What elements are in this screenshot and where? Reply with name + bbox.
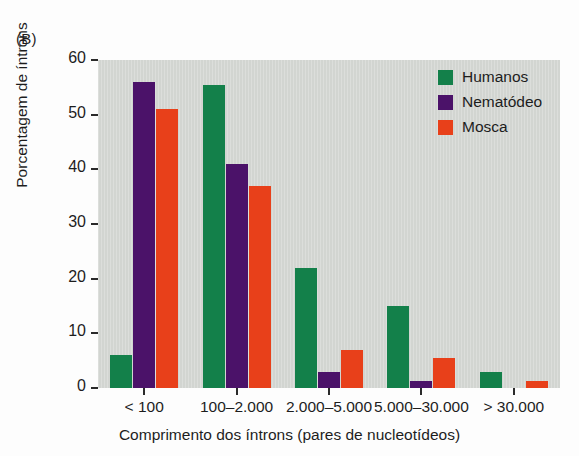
legend-color-swatch [438, 120, 453, 135]
y-axis-tick-label: 10 [68, 322, 86, 340]
legend-label: Nematódeo [462, 93, 542, 111]
x-axis-title: Comprimento dos íntrons (pares de nucleo… [0, 426, 579, 444]
y-axis-tick-label: 30 [68, 213, 86, 231]
bar [203, 85, 225, 388]
bar [480, 372, 502, 388]
y-axis-tick-mark [91, 278, 98, 280]
y-axis-tick-mark [91, 59, 98, 61]
x-axis-tick-mark [236, 388, 238, 395]
y-axis-tick-label: 60 [68, 49, 86, 67]
legend-color-swatch [438, 95, 453, 110]
y-axis-tick-mark [91, 332, 98, 334]
y-axis-tick-label: 40 [68, 158, 86, 176]
bar [526, 381, 548, 388]
y-axis-tick-mark [91, 168, 98, 170]
bar-group [295, 60, 363, 388]
y-axis-title: Porcentagem de íntrons [13, 0, 31, 245]
bar [110, 355, 132, 388]
y-axis-tick-label: 0 [77, 377, 86, 395]
legend-label: Mosca [462, 118, 508, 136]
legend: HumanosNematódeoMosca [438, 68, 542, 143]
bar [249, 186, 271, 388]
x-axis-tick-label: > 30.000 [454, 398, 574, 416]
y-axis-tick-label: 50 [68, 104, 86, 122]
x-axis-tick-mark [328, 388, 330, 395]
legend-label: Humanos [462, 68, 528, 86]
y-axis-tick-mark [91, 114, 98, 116]
y-axis-tick-label: 20 [68, 268, 86, 286]
x-axis-tick-mark [143, 388, 145, 395]
bar [318, 372, 340, 388]
bar [226, 164, 248, 388]
legend-color-swatch [438, 70, 453, 85]
legend-item: Humanos [438, 68, 542, 86]
x-axis-tick-mark [513, 388, 515, 395]
x-axis-tick-mark [420, 388, 422, 395]
bar [410, 381, 432, 388]
bar [387, 306, 409, 388]
figure: (B) Porcentagem de íntrons 0102030405060… [0, 0, 579, 456]
bar [433, 358, 455, 388]
bar [295, 268, 317, 388]
bar [341, 350, 363, 388]
y-axis-tick-mark [91, 387, 98, 389]
bar-group [203, 60, 271, 388]
y-axis-tick-mark [91, 223, 98, 225]
legend-item: Mosca [438, 118, 542, 136]
bar-group [110, 60, 178, 388]
bar [133, 82, 155, 388]
bar [156, 109, 178, 388]
legend-item: Nematódeo [438, 93, 542, 111]
